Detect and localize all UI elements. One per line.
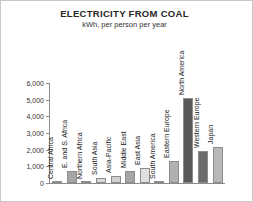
bar-category-label: Japan <box>207 125 214 144</box>
bar[interactable] <box>154 181 164 183</box>
y-axis-tick-mark <box>46 83 49 84</box>
bar-category-label: Northern Africa <box>76 132 83 179</box>
x-axis-line <box>49 183 225 184</box>
bar[interactable] <box>213 147 223 183</box>
bar[interactable] <box>52 181 62 183</box>
y-axis-tick-label: 3,000 <box>26 130 44 137</box>
y-axis-tick-label: 4,000 <box>26 113 44 120</box>
chart-subtitle: kWh, per person per year <box>1 20 248 30</box>
bar-category-label: Western Europe <box>193 97 200 147</box>
bar-slot: Middle East <box>123 83 138 183</box>
y-axis-tick-mark <box>46 133 49 134</box>
bar-slot: Japan <box>210 83 225 183</box>
bar-category-label: Asia-Pacific <box>105 136 112 173</box>
bar[interactable] <box>111 176 121 183</box>
y-axis-tick-mark <box>46 100 49 101</box>
bar-category-label: North America <box>178 51 185 95</box>
y-axis-tick-label: 2,000 <box>26 146 44 153</box>
chart-header: ELECTRICITY FROM COAL kWh, per person pe… <box>1 8 248 30</box>
bar[interactable] <box>198 151 208 184</box>
bar-category-label: South America <box>149 133 156 179</box>
bar-category-label: East Asia <box>134 136 141 165</box>
y-axis-tick-label: 0 <box>40 180 44 187</box>
bar[interactable] <box>169 161 179 184</box>
bar[interactable] <box>125 171 135 183</box>
bar[interactable] <box>96 178 106 184</box>
y-axis-tick-label: 1,000 <box>26 163 44 170</box>
y-axis-tick-mark <box>46 116 49 117</box>
bar-series: Central AfricaE. and S. AfricaNorthern A… <box>50 83 225 183</box>
chart-container: ELECTRICITY FROM COAL kWh, per person pe… <box>0 0 253 202</box>
bar-category-label: Middle East <box>120 132 127 169</box>
bar-category-label: Central Africa <box>47 137 54 179</box>
y-axis-tick-label: 5,000 <box>26 96 44 103</box>
bar-category-label: South Asia <box>91 141 98 174</box>
bar[interactable] <box>183 98 193 183</box>
chart-title: ELECTRICITY FROM COAL <box>1 8 248 19</box>
bar-category-label: E. and S. Africa <box>61 120 68 168</box>
bar-slot: Eastern Europe <box>167 83 182 183</box>
y-axis-tick-label: 6,000 <box>26 80 44 87</box>
y-axis-tick-mark <box>46 183 49 184</box>
bar-category-label: Eastern Europe <box>163 109 170 158</box>
bar[interactable] <box>81 181 91 183</box>
plot-area: 01,0002,0003,0004,0005,0006,000 Central … <box>49 83 225 184</box>
